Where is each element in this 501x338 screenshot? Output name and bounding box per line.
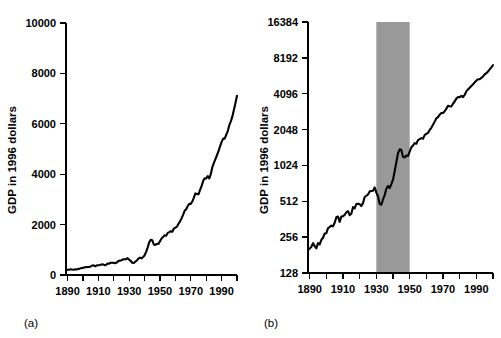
y-tick-label: 128	[280, 267, 298, 279]
x-tick-label: 1910	[86, 285, 110, 297]
y-tick-label: 1024	[274, 159, 299, 171]
panel-b-y-axis-ticks: 128256512102420484096819216384	[267, 16, 308, 279]
panel-a-y-axis-title: GDP in 1996 dollars	[6, 106, 18, 214]
panel-b-shaded-band	[376, 22, 409, 273]
panel-a-caption-label: (a)	[24, 317, 38, 329]
y-tick-label: 256	[280, 231, 298, 243]
gdp-figure: 0200040006000800010000 18901910193019501…	[0, 0, 501, 338]
panel-a-x-axis-ticks: 189019101930195019701990	[55, 275, 237, 297]
x-tick-label: 1990	[209, 285, 233, 297]
x-tick-label: 1970	[179, 285, 203, 297]
x-tick-label: 1990	[464, 283, 488, 295]
x-tick-label: 1910	[331, 283, 355, 295]
panel-b-caption-label: (b)	[264, 317, 278, 329]
x-tick-label: 1970	[431, 283, 455, 295]
y-tick-label: 0	[50, 269, 56, 281]
panel-b-svg: 128256512102420484096819216384 189019101…	[250, 0, 500, 338]
panel-b-log-scale: 128256512102420484096819216384 189019101…	[250, 0, 500, 338]
y-tick-label: 4096	[274, 88, 298, 100]
panel-a-y-axis-ticks: 0200040006000800010000	[25, 17, 66, 281]
panel-a-data-curve	[66, 96, 237, 270]
x-tick-label: 1890	[297, 283, 321, 295]
y-tick-label: 16384	[267, 16, 298, 28]
panel-b-y-axis-title: GDP in 1996 dollars	[258, 106, 270, 214]
y-tick-label: 10000	[25, 17, 56, 29]
panel-b-x-axis-ticks: 189019101930195019701990	[297, 273, 493, 295]
panel-a-linear-scale: 0200040006000800010000 18901910193019501…	[0, 0, 250, 338]
x-tick-label: 1890	[55, 285, 79, 297]
x-tick-label: 1950	[397, 283, 421, 295]
y-tick-label: 8000	[32, 67, 56, 79]
x-tick-label: 1930	[364, 283, 388, 295]
y-tick-label: 8192	[274, 52, 298, 64]
x-tick-label: 1950	[148, 285, 172, 297]
x-tick-label: 1930	[117, 285, 141, 297]
y-tick-label: 2000	[32, 219, 56, 231]
panel-a-svg: 0200040006000800010000 18901910193019501…	[0, 0, 250, 338]
panel-a-plot-area	[66, 23, 237, 275]
y-tick-label: 2048	[274, 124, 298, 136]
y-tick-label: 6000	[32, 118, 56, 130]
y-tick-label: 512	[280, 195, 298, 207]
y-tick-label: 4000	[32, 168, 56, 180]
